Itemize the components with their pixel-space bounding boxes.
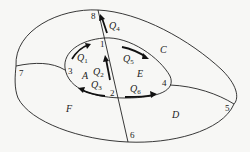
region-label: E bbox=[136, 68, 143, 79]
network-diagram: 1 2 3 4 5 6 7 8 A C D E F Q1 Q2 Q3 Q4 Q5… bbox=[0, 0, 250, 152]
node-label: 4 bbox=[162, 78, 167, 88]
outer-boundary bbox=[15, 10, 237, 142]
flow-label-q3: Q3 bbox=[91, 79, 102, 92]
region-label: A bbox=[81, 70, 89, 81]
node-label: 6 bbox=[130, 130, 135, 140]
region-label: C bbox=[160, 44, 167, 55]
node-label: 3 bbox=[68, 66, 73, 76]
region-label: F bbox=[65, 103, 73, 114]
flow-label-q6: Q6 bbox=[130, 83, 141, 96]
node-label: 8 bbox=[91, 11, 96, 21]
region-label: D bbox=[171, 109, 180, 120]
flow-label-q4: Q4 bbox=[109, 20, 120, 33]
flow-label-q2: Q2 bbox=[93, 66, 104, 79]
node-label: 2 bbox=[110, 88, 115, 98]
edge-4-5 bbox=[170, 85, 234, 104]
flow-label-q1: Q1 bbox=[77, 52, 88, 65]
node-label: 5 bbox=[225, 103, 230, 113]
node-label: 1 bbox=[100, 39, 105, 49]
flow-label-q5: Q5 bbox=[123, 53, 134, 66]
node-label: 7 bbox=[19, 68, 24, 78]
